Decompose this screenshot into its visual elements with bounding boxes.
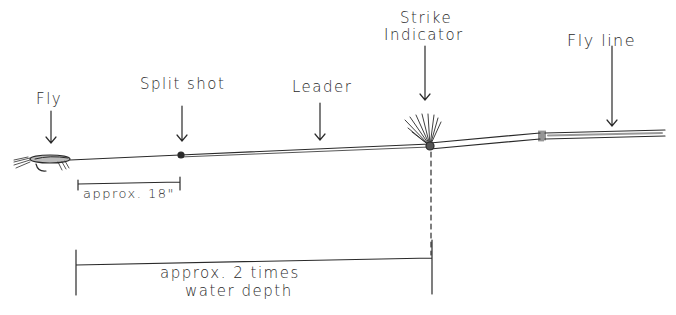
leader-line: [70, 144, 430, 160]
label-leader: Leader: [292, 80, 352, 95]
leader-butt: [430, 133, 540, 149]
measure-depth-line1: approx. 2 times: [160, 266, 300, 281]
label-indicator: Indicator: [384, 28, 464, 43]
strike-indicator-arrow: [420, 46, 430, 100]
label-strike: Strike: [400, 11, 452, 26]
measure-depth-line2: water depth: [185, 284, 293, 299]
fly-arrow: [46, 111, 56, 143]
leader-arrow: [315, 103, 325, 140]
label-fly-line: Fly line: [567, 33, 636, 49]
label-split-shot: Split shot: [140, 77, 225, 92]
fly-icon: [14, 155, 70, 171]
split-shot-arrow: [177, 106, 187, 141]
label-fly: Fly: [36, 92, 62, 107]
nymph-rig-diagram: Fly Split shot Leader Strike Indicator F…: [0, 0, 676, 315]
fly-line-arrow: [607, 46, 617, 126]
split-shot-icon: [178, 152, 184, 158]
measure-18in: approx. 18": [83, 187, 175, 200]
